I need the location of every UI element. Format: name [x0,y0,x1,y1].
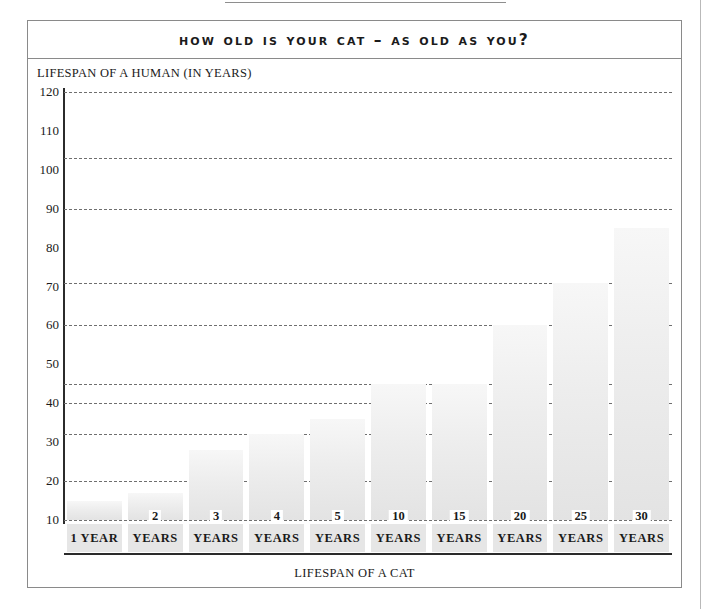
bar-slot [432,92,487,520]
x-axis-category-label: YEARS [614,524,669,552]
x-axis-category-number: 15 [450,510,469,523]
y-tick-label: 10 [46,512,59,528]
y-axis-title: LIFESPAN OF A HUMAN (IN YEARS) [37,66,252,81]
x-axis-category-number: 2 [149,510,161,523]
y-tick-label: 30 [46,434,59,450]
x-axis-title: LIFESPAN OF A CAT [28,566,681,581]
y-tick-label: 70 [46,279,59,295]
top-divider-rule [225,2,506,3]
y-tick-label: 20 [46,473,59,489]
x-axis-category-number: 5 [331,510,343,523]
y-tick-label: 40 [46,395,59,411]
bar[interactable] [249,434,304,520]
x-axis-category-number: 25 [572,510,591,523]
bar-series [64,92,672,520]
x-axis-category-label: YEARS [432,524,487,552]
bar[interactable] [67,501,122,520]
bar-slot [493,92,548,520]
y-tick-label: 120 [40,84,60,100]
bar-slot [553,92,608,520]
bar[interactable] [371,384,426,520]
x-axis-category-band: 1 YEARYEARSYEARSYEARSYEARSYEARSYEARSYEAR… [64,524,672,552]
x-axis-category-label: YEARS [493,524,548,552]
bar[interactable] [553,283,608,520]
x-axis-line [64,553,672,555]
x-axis-category-number: 30 [632,510,651,523]
bar-slot [67,92,122,520]
bar-slot [189,92,244,520]
bar-slot [310,92,365,520]
y-tick-label: 90 [46,201,59,217]
y-tick-label: 80 [46,240,59,256]
x-axis-category-label: YEARS [128,524,183,552]
bar[interactable] [493,325,548,520]
x-axis-category-label: YEARS [371,524,426,552]
y-tick-label: 60 [46,317,59,333]
page-title: How Old Is Your Cat – as Old as You? [179,31,530,49]
bar-slot [371,92,426,520]
bar[interactable] [432,384,487,520]
x-axis-category-number: 4 [271,510,283,523]
plot-area: 120110100908070605040302010 [64,92,672,520]
x-axis-category-label: YEARS [553,524,608,552]
bar-slot [614,92,669,520]
page-right-edge [700,0,701,609]
x-axis-category-number: 3 [210,510,222,523]
x-axis-category-label: 1 YEAR [67,524,122,552]
x-axis-category-label: YEARS [189,524,244,552]
chart-title-band: How Old Is Your Cat – as Old as You? [28,21,681,59]
x-axis-category-number: 10 [389,510,408,523]
x-axis-category-number: 20 [511,510,530,523]
bar-slot [128,92,183,520]
y-tick-label: 100 [40,162,60,178]
bar-slot [249,92,304,520]
chart-frame: How Old Is Your Cat – as Old as You? LIF… [27,20,682,588]
y-tick-label: 50 [46,356,59,372]
bar[interactable] [614,228,669,520]
bar[interactable] [310,419,365,520]
y-tick-label: 110 [40,123,59,139]
x-axis-category-label: YEARS [249,524,304,552]
x-axis-category-label: YEARS [310,524,365,552]
